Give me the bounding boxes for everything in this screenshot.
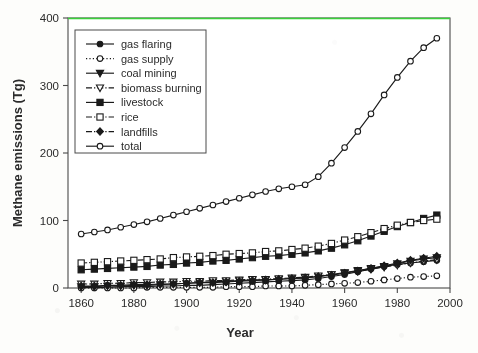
data-point-open-square-marker	[104, 259, 110, 265]
y-tick-label: 100	[40, 215, 59, 227]
data-point-filled-circle-marker	[97, 41, 103, 47]
data-point-filled-square-marker	[104, 265, 110, 271]
x-axis-title: Year	[226, 325, 253, 340]
data-point-open-circle-marker	[395, 75, 401, 81]
legend-label: total	[121, 140, 142, 152]
data-point-open-circle-marker	[263, 189, 269, 195]
data-point-open-square-marker	[368, 230, 374, 236]
x-tick-label: 2000	[437, 297, 463, 309]
data-point-open-circle-marker	[421, 45, 427, 51]
data-point-open-square-marker	[276, 248, 282, 254]
data-point-open-circle-marker	[342, 145, 348, 151]
methane-emissions-chart: 0100200300400 18601880190019201940196019…	[0, 0, 478, 353]
x-tick-label: 1980	[385, 297, 411, 309]
data-point-filled-square-marker	[97, 99, 103, 105]
data-point-open-circle-marker	[329, 281, 335, 287]
data-point-open-square-marker	[91, 259, 97, 265]
data-point-filled-square-marker	[157, 262, 163, 268]
data-point-filled-square-marker	[131, 264, 137, 270]
data-point-filled-square-marker	[170, 261, 176, 267]
data-point-open-circle-marker	[342, 280, 348, 286]
data-point-filled-square-marker	[197, 259, 203, 265]
data-point-open-circle-marker	[315, 282, 321, 288]
data-point-open-square-marker	[302, 245, 308, 251]
y-axis-title: Methane emissions (Tg)	[10, 79, 25, 227]
data-point-open-circle-marker	[276, 186, 282, 192]
x-tick-label: 1920	[226, 297, 252, 309]
data-point-open-square-marker	[157, 256, 163, 262]
data-point-open-square-marker	[170, 255, 176, 261]
data-point-open-circle-marker	[302, 182, 308, 188]
data-point-open-circle-marker	[368, 278, 374, 284]
data-point-open-circle-marker	[302, 283, 308, 289]
data-point-open-circle-marker	[355, 280, 361, 286]
data-point-open-circle-marker	[408, 58, 414, 64]
data-point-open-circle-marker	[250, 192, 256, 198]
y-tick-label: 400	[40, 12, 59, 24]
data-point-open-square-marker	[355, 234, 361, 240]
data-point-open-circle-marker	[421, 274, 427, 280]
data-point-open-square-marker	[289, 246, 295, 252]
data-point-open-square-marker	[97, 114, 103, 120]
data-point-open-circle-marker	[171, 212, 177, 218]
chart-canvas: 0100200300400 18601880190019201940196019…	[0, 0, 478, 353]
y-tick-label: 300	[40, 80, 59, 92]
data-point-open-square-marker	[315, 243, 321, 249]
data-point-open-circle-marker	[355, 129, 361, 135]
data-point-open-circle-marker	[105, 227, 111, 233]
data-point-filled-square-marker	[118, 265, 124, 271]
data-point-open-square-marker	[118, 258, 124, 264]
legend-label: livestock	[121, 96, 164, 108]
data-point-open-circle-marker	[395, 276, 401, 282]
data-point-open-circle-marker	[210, 202, 216, 208]
data-point-open-circle-marker	[223, 199, 229, 205]
chart-legend: gas flaringgas supplycoal miningbiomass …	[75, 30, 206, 153]
data-point-open-circle-marker	[197, 206, 203, 212]
data-point-open-circle-marker	[118, 224, 124, 230]
data-point-open-square-marker	[407, 219, 413, 225]
data-point-open-square-marker	[328, 240, 334, 246]
data-point-filled-square-marker	[91, 266, 97, 272]
legend-label: gas flaring	[121, 38, 172, 50]
data-point-filled-square-marker	[223, 257, 229, 263]
data-point-open-circle-marker	[97, 56, 103, 62]
data-point-open-circle-marker	[184, 209, 190, 215]
data-point-open-circle-marker	[144, 219, 150, 225]
data-point-open-square-marker	[394, 222, 400, 228]
data-point-open-circle-marker	[368, 111, 374, 117]
data-point-open-square-marker	[144, 257, 150, 263]
legend-label: rice	[121, 111, 139, 123]
data-point-open-circle-marker	[78, 231, 84, 237]
data-point-open-circle-marker	[289, 184, 295, 190]
y-tick-label: 200	[40, 147, 59, 159]
x-tick-label: 1900	[174, 297, 200, 309]
data-point-open-circle-marker	[236, 195, 242, 201]
data-point-open-circle-marker	[381, 92, 387, 98]
data-point-open-square-marker	[183, 254, 189, 260]
data-point-filled-square-marker	[78, 267, 84, 273]
data-point-open-square-marker	[421, 217, 427, 223]
data-point-open-square-marker	[131, 257, 137, 263]
x-tick-label: 1880	[121, 297, 147, 309]
legend-label: coal mining	[121, 67, 177, 79]
data-point-open-square-marker	[236, 250, 242, 256]
y-tick-label: 0	[53, 282, 59, 294]
x-tick-label: 1940	[279, 297, 305, 309]
data-point-open-circle-marker	[381, 277, 387, 283]
data-point-open-square-marker	[381, 226, 387, 232]
data-point-filled-square-marker	[183, 260, 189, 266]
data-point-open-square-marker	[210, 253, 216, 259]
data-point-open-circle-marker	[289, 283, 295, 289]
legend-label: gas supply	[121, 53, 174, 65]
data-point-open-circle-marker	[157, 216, 163, 222]
data-point-open-circle-marker	[408, 274, 414, 280]
legend-label: landfills	[121, 126, 158, 138]
data-point-open-square-marker	[262, 248, 268, 254]
data-point-open-square-marker	[78, 260, 84, 266]
data-point-open-circle-marker	[92, 229, 98, 235]
data-point-open-square-marker	[342, 237, 348, 243]
data-point-open-circle-marker	[131, 222, 137, 228]
data-point-open-square-marker	[197, 253, 203, 259]
data-point-open-circle-marker	[329, 160, 335, 166]
data-point-open-circle-marker	[434, 273, 440, 279]
